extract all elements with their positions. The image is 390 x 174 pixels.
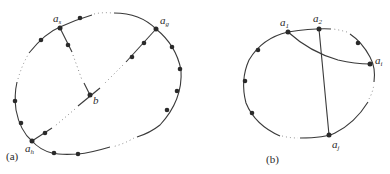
label-ai: ai xyxy=(375,54,383,68)
ellipse-arc-bottom xyxy=(32,141,110,154)
vertex xyxy=(52,151,57,156)
edge-ag-b-gap xyxy=(104,65,123,84)
caption-a: (a) xyxy=(6,150,19,163)
label-a2: a2 xyxy=(313,12,323,26)
vertex xyxy=(43,131,48,136)
vertex xyxy=(356,41,361,46)
circle-gap-right xyxy=(369,84,374,99)
ellipse-gap-bottom xyxy=(112,138,134,147)
vertex-as xyxy=(58,26,63,31)
label-as: as xyxy=(53,12,62,26)
circle-arc-bottom xyxy=(300,102,368,138)
vertex xyxy=(178,67,183,72)
circle-gap-top xyxy=(333,29,347,32)
vertex xyxy=(250,111,255,116)
vertex xyxy=(243,79,248,84)
vertex xyxy=(76,152,81,157)
ellipse-arc-left xyxy=(15,82,32,141)
vertex xyxy=(175,89,180,94)
label-aj: aj xyxy=(332,138,340,152)
edge-a1-ai xyxy=(288,32,370,64)
label-a1: a1 xyxy=(280,16,289,30)
vertex xyxy=(170,45,175,50)
vertex xyxy=(78,16,83,21)
label-ag: ag xyxy=(160,14,170,28)
vertex xyxy=(142,41,147,46)
figure-a: as ag ah b (a) xyxy=(6,12,182,163)
ellipse-arc-right xyxy=(114,13,181,137)
ellipse-gap-top xyxy=(94,13,112,14)
circle-arc-main xyxy=(244,29,331,136)
vertex-ag xyxy=(154,27,159,32)
vertex-b xyxy=(88,93,93,98)
vertex xyxy=(19,121,24,126)
label-b: b xyxy=(93,94,99,106)
ellipse-gap-left xyxy=(18,55,28,79)
figure-b: a1 a2 ai aj (b) xyxy=(243,12,383,166)
vertex xyxy=(165,108,170,113)
vertex xyxy=(66,43,71,48)
vertex xyxy=(39,38,44,43)
edge-as-b-upper xyxy=(60,28,72,52)
edge-b-ah-gap xyxy=(55,109,75,126)
edge-b-ah-lower xyxy=(32,128,52,141)
vertex-ai xyxy=(368,62,373,67)
circle-arc-right xyxy=(350,34,375,82)
vertex xyxy=(256,48,261,53)
vertex-a2 xyxy=(317,27,322,32)
figure-canvas: as ag ah b (a) a1 a2 ai aj (b) xyxy=(0,0,390,174)
label-ah: ah xyxy=(25,142,35,156)
vertex-a1 xyxy=(286,30,291,35)
edge-a2-aj xyxy=(319,29,329,135)
circle-gap-bottom-left xyxy=(282,136,298,138)
edge-as-b-gap xyxy=(73,55,82,80)
vertex-aj xyxy=(327,133,332,138)
vertex xyxy=(130,55,135,60)
caption-b: (b) xyxy=(266,153,279,166)
vertex xyxy=(13,99,18,104)
